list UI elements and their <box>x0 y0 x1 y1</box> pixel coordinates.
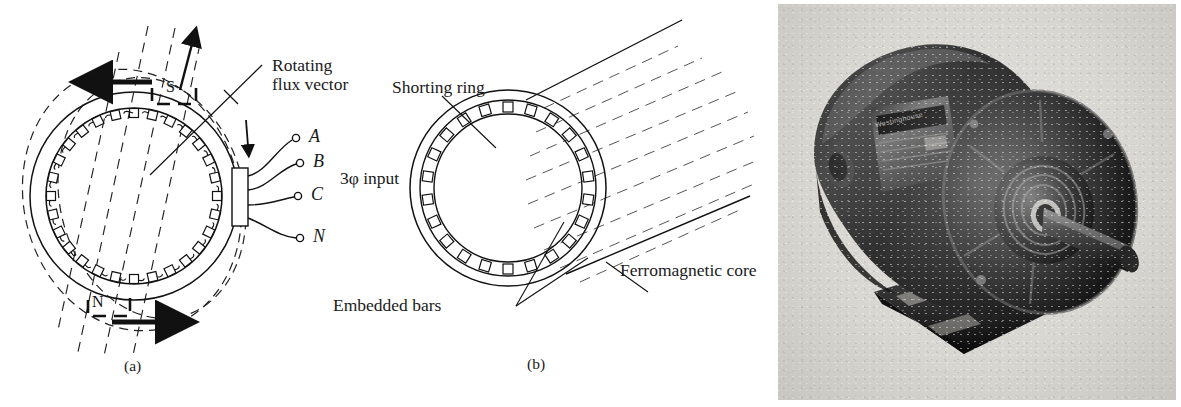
north-pole-label: N <box>92 293 104 311</box>
terminal-dots <box>292 134 303 241</box>
three-phase-input-label: 3φ input <box>340 169 399 188</box>
rotor-embedded-bar <box>428 148 441 161</box>
stator-slot <box>48 209 59 220</box>
south-pole-label: S <box>166 78 175 96</box>
stator-slot <box>130 275 139 284</box>
rotor-shorting-ring-circle <box>420 100 596 276</box>
rotor-embedded-bar <box>575 215 588 228</box>
rotor-embedded-bar <box>583 171 594 182</box>
rotor-embedded-bar <box>422 171 433 182</box>
photo-vignette <box>778 4 1176 400</box>
rotation-arrow-left <box>88 72 110 80</box>
photo-frame: Westinghouse <box>778 4 1176 400</box>
panel-motor-photograph: Westinghouse <box>778 4 1176 400</box>
stator-slot <box>210 209 221 220</box>
figure-induction-motor: Rotating flux vector S N A B C N (a) <box>0 0 1181 407</box>
stator-inner-bore <box>46 108 222 284</box>
caption-a: (a) <box>124 357 141 375</box>
stator-slot <box>130 109 139 118</box>
stator-slot <box>193 138 206 151</box>
stator-slot <box>76 125 89 138</box>
stator-slot <box>47 192 56 201</box>
rotor-embedded-bar <box>479 260 491 272</box>
rotor-diagram-svg <box>330 0 780 407</box>
stator-slot <box>179 255 192 268</box>
stator-slot <box>63 138 76 151</box>
rotation-arrow-right <box>246 120 248 146</box>
stator-slot <box>213 192 222 201</box>
caption-b: (b) <box>527 355 545 373</box>
rotor-embedded-bar <box>503 102 513 112</box>
stator-slot <box>193 241 206 254</box>
embedded-bars-label: Embedded bars <box>333 296 441 315</box>
stator-outer-circle <box>30 92 238 300</box>
rotor-embedded-bar <box>583 194 594 205</box>
terminal-label-c: C <box>311 185 323 204</box>
shorting-ring-label: Shorting ring <box>392 78 485 97</box>
terminal-label-b: B <box>313 152 324 171</box>
terminal-label-n: N <box>313 227 325 246</box>
stator-slot <box>63 241 76 254</box>
rotor-embedded-bar <box>503 264 513 274</box>
stator-slot <box>147 110 158 121</box>
stator-slot <box>210 172 221 183</box>
rotation-arrow-up <box>180 44 192 90</box>
ferromagnetic-core-label: Ferromagnetic core <box>620 261 757 280</box>
stator-slot <box>76 255 89 268</box>
rotor-embedded-bar <box>428 215 441 228</box>
rotor-outer-circle <box>410 90 606 286</box>
rotor-embedded-bar <box>422 194 433 205</box>
rotor-embedded-bar <box>525 104 537 116</box>
stator-slot-group <box>47 109 222 284</box>
core-body-outline <box>526 20 750 274</box>
rotor-inner-bore-circle <box>434 114 582 262</box>
stator-slot <box>147 272 158 283</box>
terminal-box <box>232 168 248 226</box>
stator-slot <box>110 110 121 121</box>
terminal-label-a: A <box>309 127 320 146</box>
panel-squirrel-cage-rotor: Shorting ring Embedded bars Ferromagneti… <box>330 0 780 407</box>
stator-slot <box>48 172 59 183</box>
stator-slot <box>110 272 121 283</box>
rotor-embedded-bar <box>479 104 491 116</box>
rotor-bar-group <box>422 102 594 274</box>
lead-wires <box>248 140 296 238</box>
flux-label-line1: Rotating <box>272 55 332 75</box>
rotor-embedded-bar <box>525 260 537 272</box>
